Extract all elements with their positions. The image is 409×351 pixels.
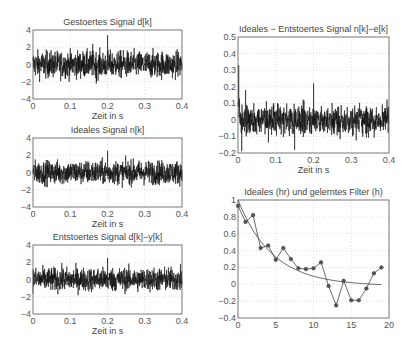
data-point-marker [365, 287, 369, 291]
data-point-marker [312, 266, 316, 270]
plot-ideales-signal: Ideales Signal n[k] Zeit in s 420−2−400.… [33, 138, 182, 207]
data-point-marker [342, 279, 346, 283]
y-tick-label: 0.8 [223, 212, 238, 222]
y-tick-label: 2 [26, 42, 33, 52]
y-tick-label: 4 [26, 25, 33, 35]
x-tick-label: 10 [308, 320, 318, 330]
y-tick-label: 0.5 [223, 32, 238, 42]
x-tick-label: 15 [346, 320, 356, 330]
data-point-marker [266, 244, 270, 248]
data-point-marker [274, 258, 278, 262]
plot-title: Entstoertes Signal d[k]−y[k] [53, 232, 162, 242]
data-point-marker [244, 220, 248, 224]
data-point-marker [289, 257, 293, 261]
x-tick-label: 20 [384, 320, 394, 330]
y-tick-label: 0.4 [223, 246, 238, 256]
x-tick-label: 0 [30, 101, 35, 111]
learned-filter-line [238, 206, 381, 306]
signal-line [238, 65, 389, 151]
plot-area [238, 37, 389, 153]
data-point-marker [304, 267, 308, 271]
y-tick-label: 0.2 [223, 262, 238, 272]
y-tick-label: 2 [26, 257, 33, 267]
plot-title: Ideales (hr) und gelerntes Filter (h) [244, 187, 383, 197]
signal-line [33, 151, 182, 188]
x-tick-label: 0.3 [345, 155, 358, 165]
plot-gestoertes-signal: Gestoertes Signal d[k] Zeit in s 420−2−4… [33, 30, 182, 99]
x-tick-label: 0 [235, 320, 240, 330]
y-tick-label: 0 [231, 115, 238, 125]
x-tick-label: 0 [30, 209, 35, 219]
x-tick-label: 0.2 [101, 316, 114, 326]
data-point-marker [251, 213, 255, 217]
data-point-marker [297, 266, 301, 270]
x-tick-label: 0.2 [307, 155, 320, 165]
data-point-marker [259, 246, 263, 250]
y-tick-label: 0.2 [223, 82, 238, 92]
y-tick-label: 0 [26, 275, 33, 285]
x-tick-label: 0.4 [176, 209, 189, 219]
data-point-marker [334, 304, 338, 308]
x-tick-label: 0.4 [383, 155, 396, 165]
data-point-marker [319, 261, 323, 265]
data-point-marker [327, 284, 331, 288]
data-point-marker [357, 299, 361, 303]
x-tick-label: 0.1 [269, 155, 282, 165]
plot-title: Gestoertes Signal d[k] [63, 17, 152, 27]
x-tick-label: 0.1 [64, 316, 77, 326]
y-tick-label: 4 [26, 240, 33, 250]
x-tick-label: 0.2 [101, 209, 114, 219]
y-tick-label: 0 [26, 168, 33, 178]
plot-title: Ideales − Entstoertes Signal n[k]−e[k] [239, 24, 388, 34]
x-axis-label: Zeit in s [92, 326, 124, 336]
plot-area [33, 138, 182, 207]
x-tick-label: 0.4 [176, 101, 189, 111]
y-tick-label: 0 [231, 279, 238, 289]
y-tick-label: −2 [21, 77, 33, 87]
y-tick-label: 0 [26, 60, 33, 70]
data-point-marker [372, 272, 376, 276]
y-tick-label: 2 [26, 150, 33, 160]
plot-differenz-signal: Ideales − Entstoertes Signal n[k]−e[k] Z… [238, 37, 389, 153]
x-tick-label: 0.3 [138, 316, 151, 326]
y-tick-label: −0.2 [218, 296, 238, 306]
data-point-marker [380, 266, 384, 270]
plot-area [33, 30, 182, 99]
x-tick-label: 0 [235, 155, 240, 165]
plot-filter-koeffizienten: Ideales (hr) und gelerntes Filter (h) 10… [238, 200, 389, 318]
plot-title: Ideales Signal n[k] [71, 125, 145, 135]
x-tick-label: 0 [30, 316, 35, 326]
y-tick-label: 0.4 [223, 49, 238, 59]
y-tick-label: −0.1 [218, 131, 238, 141]
y-tick-label: 0.1 [223, 98, 238, 108]
y-tick-label: 0.3 [223, 65, 238, 75]
plot-entstoertes-signal: Entstoertes Signal d[k]−y[k] Zeit in s 4… [33, 245, 182, 314]
x-tick-label: 0.1 [64, 101, 77, 111]
x-axis-label: Zeit in s [92, 111, 124, 121]
x-axis-label: Zeit in s [92, 219, 124, 229]
signal-line [33, 258, 182, 295]
y-tick-label: 4 [26, 133, 33, 143]
plot-area [33, 245, 182, 314]
data-point-marker [282, 246, 286, 250]
y-tick-label: −2 [21, 185, 33, 195]
y-tick-label: 0.6 [223, 229, 238, 239]
x-tick-label: 0.4 [176, 316, 189, 326]
y-tick-label: −2 [21, 292, 33, 302]
x-tick-label: 0.2 [101, 101, 114, 111]
x-tick-label: 0.1 [64, 209, 77, 219]
x-axis-label: Zeit in s [298, 165, 330, 175]
signal-line [33, 35, 182, 83]
y-tick-label: 1 [231, 195, 238, 205]
x-tick-label: 0.3 [138, 101, 151, 111]
data-point-marker [349, 299, 353, 303]
x-tick-label: 5 [273, 320, 278, 330]
x-tick-label: 0.3 [138, 209, 151, 219]
plot-area [238, 200, 389, 318]
